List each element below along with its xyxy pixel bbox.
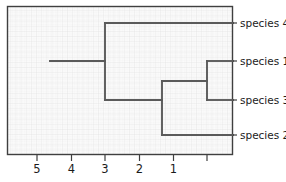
- dendrogram-figure: species 4species 1species 3species 25432…: [0, 0, 286, 182]
- axis-tick-label-2: 4: [68, 162, 75, 176]
- axis-tick-label-4: 2: [136, 162, 143, 176]
- leaf-label-4: species 2: [240, 129, 286, 141]
- dendrogram-canvas: species 4species 1species 3species 25432…: [0, 0, 286, 182]
- axis-tick-label-5: 1: [170, 162, 177, 176]
- leaf-label-3: species 3: [240, 94, 286, 106]
- leaf-label-1: species 4: [240, 17, 286, 29]
- axis-tick-label-1: 5: [33, 162, 40, 176]
- leaf-label-2: species 1: [240, 55, 286, 67]
- axis-tick-label-3: 3: [101, 162, 108, 176]
